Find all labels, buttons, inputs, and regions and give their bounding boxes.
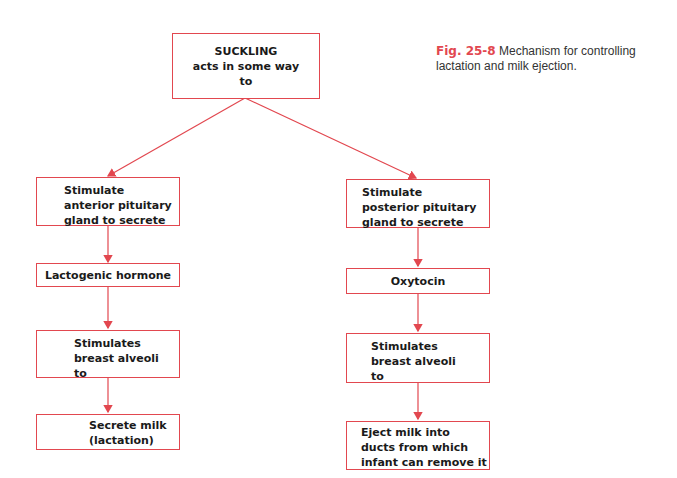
posterior-pituitary-text: Stimulate posterior pituitary gland to s…: [362, 185, 489, 230]
secrete-milk-text: Secrete milk (lactation): [89, 418, 179, 448]
figure-label: Fig. 25-8: [436, 44, 496, 58]
oxytocin-box: Oxytocin: [346, 268, 490, 294]
suckling-text: SUCKLING acts in some way to: [173, 44, 319, 89]
right-stimulates-alveoli-text: Stimulates breast alveoli to: [371, 339, 489, 384]
left-stimulates-alveoli-text: Stimulates breast alveoli to: [74, 336, 179, 381]
figure-caption: Fig. 25-8 Mechanism for controlling lact…: [436, 44, 671, 74]
oxytocin-text: Oxytocin: [347, 274, 489, 289]
suckling-box: SUCKLING acts in some way to: [172, 33, 320, 99]
left-stimulates-alveoli-box: Stimulates breast alveoli to: [36, 330, 180, 378]
secrete-milk-box: Secrete milk (lactation): [36, 414, 180, 450]
lactogenic-hormone-box: Lactogenic hormone: [36, 263, 180, 287]
anterior-pituitary-text: Stimulate anterior pituitary gland to se…: [64, 183, 179, 228]
eject-milk-box: Eject milk into ducts from which infant …: [346, 421, 490, 470]
eject-milk-text: Eject milk into ducts from which infant …: [361, 425, 489, 470]
posterior-pituitary-box: Stimulate posterior pituitary gland to s…: [346, 179, 490, 228]
right-stimulates-alveoli-box: Stimulates breast alveoli to: [346, 333, 490, 383]
anterior-pituitary-box: Stimulate anterior pituitary gland to se…: [36, 177, 180, 226]
lactogenic-hormone-text: Lactogenic hormone: [37, 268, 179, 283]
